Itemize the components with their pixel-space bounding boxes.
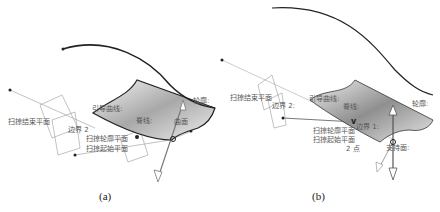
sweep-diagram-b: v (220, 0, 440, 212)
caption-b: (b) (312, 190, 325, 202)
caption-a: (a) (99, 190, 111, 202)
label-sweep-end-plane: 扫掠结束平面 (230, 95, 272, 102)
label-sweep-start-plane: 扫掠起始平面 (313, 137, 355, 144)
label-sweep-start-plane: 扫掠起始平面 (86, 146, 128, 153)
panel-a: 扫掠结束平面 边界 2 引导曲线: 脊线: 曲面 轮廓: 扫掠轮廓平面 扫掠起始… (0, 0, 220, 212)
label-profile: 轮廓: (193, 98, 209, 105)
label-boundary: 边界 2 (68, 127, 89, 134)
label-boundary-1: 边界 1: (356, 124, 379, 131)
label-support-surface: 支持面: (386, 145, 409, 152)
label-guide-curve: 引导曲线: (92, 106, 122, 113)
label-profile-plane: 扫掠轮廓平面 (313, 128, 355, 135)
panel-b: v 扫掠结束平面 边界 2: 引导曲线: 脊线: 轮廓: 扫掠轮廓平面 边界 1… (220, 0, 440, 212)
label-boundary-2: 边界 2: (272, 103, 295, 110)
label-surface: 曲面 (174, 119, 188, 126)
label-sweep-end-plane: 扫掠结束平面 (8, 119, 50, 126)
label-spine: 脊线: (136, 118, 152, 125)
label-profile: 轮廓: (412, 101, 428, 108)
guide-curve (272, 8, 433, 95)
label-guide-curve: 引导曲线: (309, 96, 339, 103)
label-profile-plane: 扫掠轮廓平面 (86, 136, 128, 143)
label-spine: 脊线: (343, 104, 359, 111)
label-origin: 2 点 (346, 146, 360, 153)
